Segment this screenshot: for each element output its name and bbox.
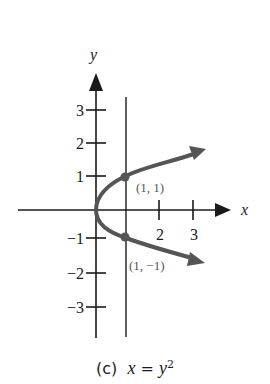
point-1-1 (121, 173, 130, 182)
figure-caption: (c) x = y2 (0, 358, 270, 379)
svg-text:1: 1 (76, 168, 84, 185)
x-axis-label: x (240, 201, 248, 218)
curve-arrow-lower-icon (187, 252, 205, 266)
y-tick-labels: 3 2 1 −1 −2 −3 (67, 102, 84, 316)
x-tick-labels: 2 3 (156, 226, 198, 243)
caption-exponent: 2 (167, 358, 174, 371)
y-axis-label: y (88, 46, 98, 64)
svg-text:−3: −3 (67, 299, 84, 316)
svg-text:2: 2 (76, 135, 84, 152)
svg-text:3: 3 (76, 102, 84, 119)
svg-text:−1: −1 (67, 230, 84, 247)
caption-lhs: x (127, 358, 135, 378)
y-axis-arrow-icon (89, 73, 103, 91)
caption-rhs: y (159, 358, 167, 378)
curve-arrow-upper-icon (189, 146, 206, 160)
parabola-curve (96, 154, 194, 258)
caption-prefix: (c) (96, 359, 117, 378)
graph-figure: x y 3 2 1 −1 −2 −3 2 3 (1, 1) (1, −1) (0, 0, 270, 384)
point-1-neg1 (121, 233, 130, 242)
svg-text:3: 3 (190, 226, 198, 243)
caption-equals: = (141, 359, 154, 378)
point-label-1-neg1: (1, −1) (129, 258, 165, 273)
svg-text:2: 2 (156, 226, 164, 243)
svg-text:−2: −2 (67, 265, 84, 282)
x-axis-arrow-icon (215, 203, 231, 217)
point-label-1-1: (1, 1) (136, 180, 164, 195)
